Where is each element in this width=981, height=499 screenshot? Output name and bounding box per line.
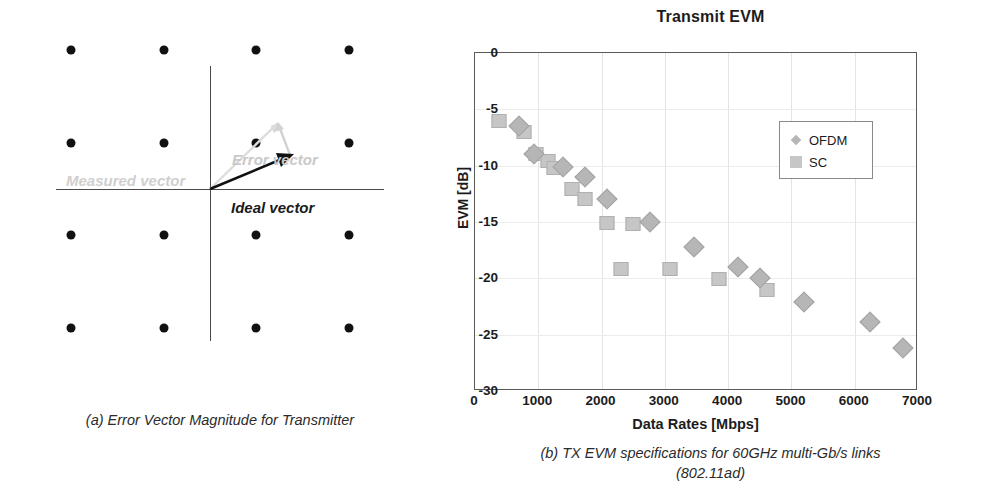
data-point-sc (711, 272, 726, 286)
chart-plot-area: OFDM SC (474, 52, 917, 390)
x-tick-label: 7000 (902, 393, 932, 408)
y-tick-label: -25 (458, 326, 498, 341)
data-point-ofdm (859, 312, 880, 333)
gridline-vertical (728, 53, 729, 389)
x-tick-label: 2000 (586, 393, 616, 408)
constellation-plot: Ideal vector Error vector Measured vecto… (48, 48, 392, 348)
gridline-vertical (791, 53, 792, 389)
square-marker-icon (790, 156, 802, 168)
figure-b-transmit-evm-chart: Transmit EVM OFDM SC 0-5-10-15-20-25-30 … (440, 0, 981, 499)
evm-vector-overlay (48, 48, 392, 348)
figure-b-caption-line2: (802.11ad) (440, 464, 981, 484)
data-point-ofdm (728, 256, 749, 277)
chart-legend: OFDM SC (779, 121, 873, 179)
gridline-vertical (665, 53, 666, 389)
legend-label-ofdm: OFDM (809, 133, 847, 148)
diamond-marker-icon (791, 135, 802, 146)
gridline-horizontal (475, 335, 916, 336)
data-point-ofdm (640, 211, 661, 232)
y-tick-label: 0 (458, 45, 498, 60)
x-tick-label: 1000 (522, 393, 552, 408)
x-axis-title: Data Rates [Mbps] (474, 416, 917, 432)
gridline-vertical (855, 53, 856, 389)
data-point-sc (626, 217, 641, 231)
figure-b-caption: (b) TX EVM specifications for 60GHz mult… (440, 444, 981, 483)
data-point-ofdm (684, 236, 705, 257)
legend-label-sc: SC (809, 155, 827, 170)
data-point-sc (662, 262, 677, 276)
x-tick-label: 5000 (775, 393, 805, 408)
data-point-ofdm (793, 291, 814, 312)
legend-item-sc: SC (790, 151, 872, 173)
x-tick-label: 4000 (712, 393, 742, 408)
figure-a-caption: (a) Error Vector Magnitude for Transmitt… (0, 412, 440, 428)
y-axis-title: EVM [dB] (455, 138, 471, 258)
data-point-sc (577, 192, 592, 206)
data-point-sc (614, 262, 629, 276)
gridline-horizontal (475, 109, 916, 110)
chart-title: Transmit EVM (440, 8, 981, 26)
y-tick-label: -5 (458, 101, 498, 116)
data-point-ofdm (596, 189, 617, 210)
gridline-horizontal (475, 222, 916, 223)
data-point-ofdm (892, 338, 913, 359)
data-point-sc (599, 216, 614, 230)
error-vector-label: Error vector (232, 151, 318, 168)
gridline-vertical (538, 53, 539, 389)
ideal-vector-label: Ideal vector (231, 199, 314, 216)
x-tick-label: 6000 (839, 393, 869, 408)
x-tick-label: 0 (470, 393, 478, 408)
measured-vector-label: Measured vector (66, 172, 185, 189)
figure-b-caption-line1: (b) TX EVM specifications for 60GHz mult… (440, 444, 981, 464)
gridline-horizontal (475, 278, 916, 279)
legend-item-ofdm: OFDM (790, 129, 872, 151)
x-tick-label: 3000 (649, 393, 679, 408)
y-tick-label: -30 (458, 383, 498, 398)
figure-a-evm-constellation: Ideal vector Error vector Measured vecto… (0, 0, 440, 499)
y-tick-label: -20 (458, 270, 498, 285)
